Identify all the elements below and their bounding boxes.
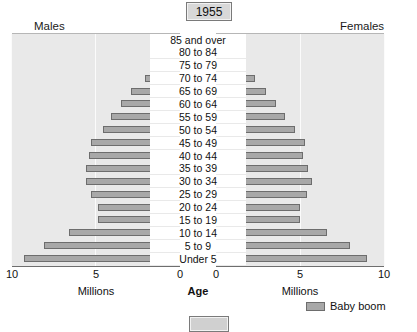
right-axis-caption: Millions	[282, 285, 319, 297]
males-header-label: Males	[34, 20, 65, 32]
age-group-label: Under 5	[150, 253, 246, 265]
age-group-label: 35 to 39	[150, 162, 246, 174]
age-group-label: 5 to 9	[150, 240, 246, 252]
year-title-text: 1955	[196, 5, 223, 19]
age-group-label: 40 to 44	[150, 150, 246, 162]
tick-label-left-0: 0	[177, 268, 183, 280]
age-group-label: 70 to 74	[150, 72, 246, 84]
age-group-label: 60 to 64	[150, 98, 246, 110]
females-header-label: Females	[340, 20, 384, 32]
tick-label-left-5: 5	[93, 268, 99, 280]
bottom-control-button[interactable]	[189, 316, 229, 332]
center-axis-caption: Age	[188, 285, 209, 297]
legend: Baby boom	[306, 300, 386, 312]
age-group-label: 55 to 59	[150, 111, 246, 123]
year-title-box: 1955	[186, 2, 232, 21]
age-group-label: 10 to 14	[150, 227, 246, 239]
age-group-label: 20 to 24	[150, 201, 246, 213]
age-group-label: 75 to 79	[150, 59, 246, 71]
age-label-column: 85 and over80 to 8475 to 7970 to 7465 to…	[180, 33, 216, 265]
tick-label-right-5: 5	[297, 268, 303, 280]
tick-label-left-10: 10	[6, 268, 18, 280]
age-group-label: 45 to 49	[150, 137, 246, 149]
tick-label-right-0: 0	[213, 268, 219, 280]
age-group-label: 30 to 34	[150, 175, 246, 187]
age-group-label: 85 and over	[150, 34, 246, 46]
age-group-label: 50 to 54	[150, 124, 246, 136]
tick-label-right-10: 10	[378, 268, 390, 280]
age-group-label: 65 to 69	[150, 85, 246, 97]
age-group-label: 15 to 19	[150, 214, 246, 226]
baby-boom-swatch-icon	[306, 302, 325, 311]
legend-label: Baby boom	[330, 300, 386, 312]
age-group-label: 80 to 84	[150, 46, 246, 58]
left-axis-caption: Millions	[78, 285, 115, 297]
gridline-females-10	[384, 34, 385, 266]
age-group-label: 25 to 29	[150, 188, 246, 200]
